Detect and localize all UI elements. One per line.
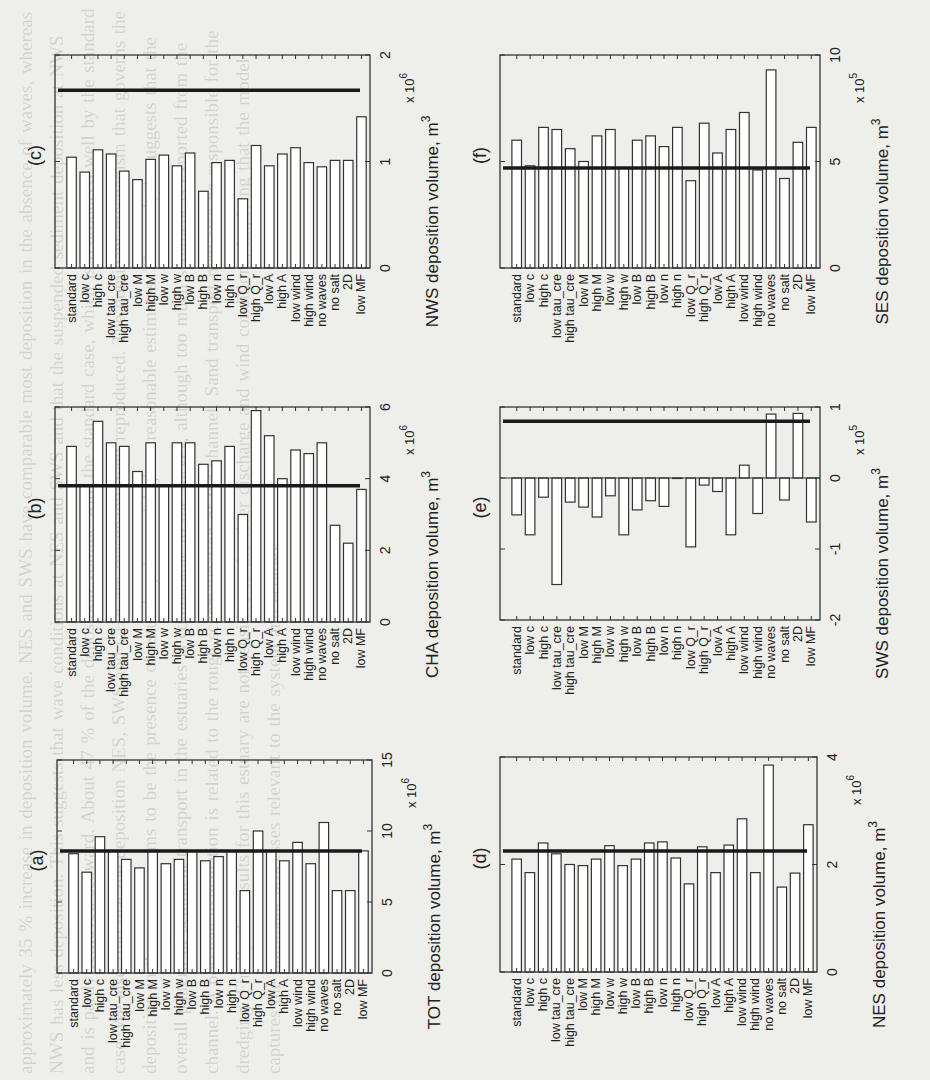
- panel-label: (f): [470, 147, 490, 164]
- category-label: high A: [277, 978, 291, 1013]
- category-label: low A: [709, 977, 723, 1008]
- category-label: high A: [275, 273, 289, 308]
- bar: [686, 181, 696, 268]
- category-label: low n: [657, 274, 671, 303]
- category-label: no waves: [764, 626, 778, 679]
- bar: [737, 819, 747, 972]
- bar: [711, 873, 721, 972]
- bar: [106, 154, 116, 268]
- bar: [238, 199, 248, 268]
- category-label: low c: [78, 274, 92, 302]
- category-label: high A: [724, 273, 738, 308]
- category-label: low MF: [801, 978, 815, 1019]
- category-label: low B: [185, 979, 199, 1010]
- category-label: 2D: [791, 626, 805, 642]
- y-tick-label: 6: [377, 403, 393, 411]
- category-label: high M: [590, 626, 604, 664]
- bar: [278, 479, 288, 622]
- bar: [133, 180, 143, 268]
- category-label: high w: [170, 273, 184, 310]
- category-label: high M: [144, 274, 158, 312]
- category-label: high Q_r: [695, 978, 709, 1026]
- category-label: 2D: [341, 274, 355, 290]
- category-label: low M: [576, 978, 590, 1011]
- bar: [724, 845, 734, 972]
- y-axis-title: NWS deposition volume, m3: [419, 115, 442, 327]
- bar: [212, 163, 222, 268]
- bar: [330, 525, 340, 622]
- bar: [807, 478, 817, 522]
- bar: [174, 859, 184, 973]
- bar: [512, 140, 522, 268]
- y-tick-label: 2: [377, 51, 393, 59]
- chart-panel-d: standardlow chigh clow tau_crehigh tau_c…: [470, 753, 889, 1047]
- bar: [304, 454, 314, 622]
- category-label: low MF: [356, 979, 370, 1020]
- bar: [619, 478, 629, 535]
- category-label: high n: [670, 626, 684, 660]
- bar: [280, 861, 290, 973]
- category-label: high c: [537, 626, 551, 659]
- category-label: low A: [711, 273, 725, 304]
- chart-panel-b: standardlow chigh clow tau_crehigh tau_c…: [25, 403, 442, 697]
- category-label: high c: [537, 274, 551, 307]
- bar: [80, 486, 90, 622]
- category-label: high wind: [748, 978, 762, 1031]
- category-label: high w: [172, 978, 186, 1015]
- category-label: no waves: [315, 628, 329, 681]
- bar: [225, 160, 235, 268]
- y-tick-label: 0: [827, 474, 843, 482]
- bar: [646, 136, 656, 268]
- category-label: standard: [65, 274, 79, 323]
- category-label: high tau_cre: [117, 274, 131, 343]
- category-label: no waves: [317, 979, 331, 1032]
- panel-label: (a): [27, 850, 47, 872]
- bar: [265, 436, 275, 622]
- bar: [512, 478, 522, 515]
- category-label: no waves: [764, 274, 778, 327]
- bar: [93, 150, 103, 268]
- bar: [512, 859, 522, 972]
- bar: [579, 162, 589, 269]
- bar: [185, 443, 195, 622]
- category-label: low tau_cre: [104, 274, 118, 338]
- bar: [804, 825, 814, 972]
- bar: [632, 478, 642, 510]
- category-label: low Q_r: [682, 978, 696, 1021]
- category-label: high Q_r: [249, 628, 263, 676]
- category-label: low Q_r: [684, 626, 698, 669]
- category-label: low A: [711, 625, 725, 656]
- y-tick-label: 1: [377, 157, 393, 165]
- category-label: high n: [223, 274, 237, 308]
- category-label: low wind: [737, 274, 751, 322]
- bar: [319, 823, 329, 974]
- y-tick-label: 0: [827, 264, 843, 272]
- bar: [265, 166, 275, 268]
- category-label: 2D: [341, 628, 355, 644]
- category-label: high B: [644, 274, 658, 309]
- bar: [525, 873, 535, 972]
- bar: [330, 160, 340, 268]
- category-label: high wind: [304, 979, 318, 1032]
- bar: [645, 843, 655, 972]
- category-label: low A: [262, 627, 276, 658]
- y-tick-label: 2: [377, 546, 393, 554]
- category-label: high w: [617, 273, 631, 310]
- category-label: low tau_cre: [104, 628, 118, 692]
- bar: [777, 887, 787, 972]
- category-label: low Q_r: [684, 274, 698, 317]
- bar: [133, 472, 143, 623]
- category-label: low M: [577, 274, 591, 307]
- bar: [199, 464, 209, 622]
- bar: [790, 873, 800, 972]
- category-label: low M: [133, 979, 147, 1012]
- bar: [95, 837, 105, 973]
- bar: [225, 446, 235, 622]
- category-label: standard: [67, 979, 81, 1028]
- bar: [251, 411, 260, 622]
- bar: [525, 166, 535, 268]
- bar: [740, 465, 750, 478]
- bar: [135, 868, 145, 973]
- bar: [344, 160, 354, 268]
- category-label: high c: [536, 978, 550, 1011]
